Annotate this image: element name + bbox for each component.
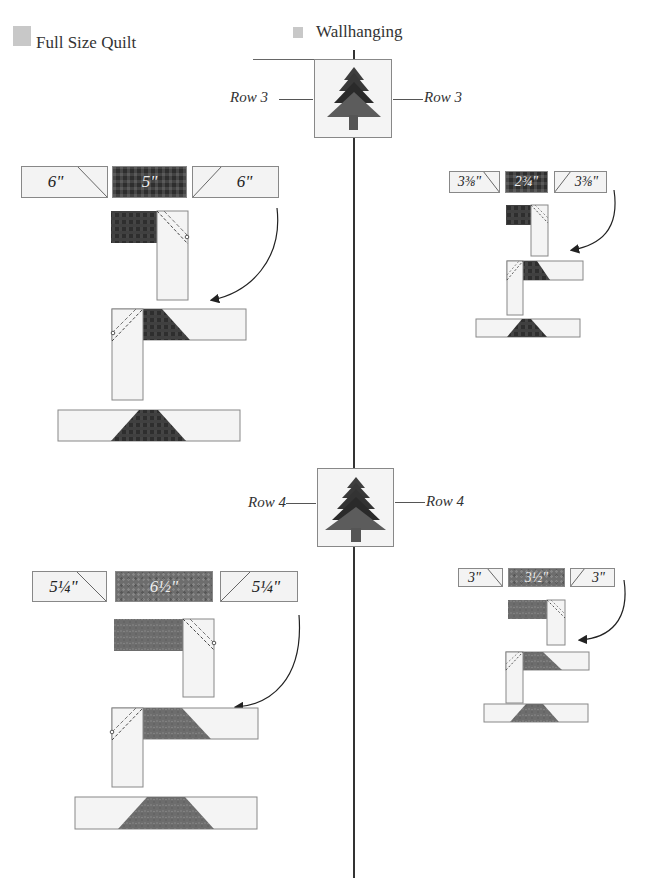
center-divider-line <box>353 50 355 878</box>
row4-wall-right-size: 3" <box>592 570 605 586</box>
row4-leader-left <box>286 503 316 504</box>
row4-full-middle-strip: 6½" <box>115 571 213 602</box>
row3-leader-left <box>279 99 313 100</box>
row3-full-left-size: 6" <box>48 172 64 192</box>
row3-full-middle-size: 5" <box>142 172 158 192</box>
wallhanging-swatch <box>293 27 303 38</box>
row4-wall-right-strip: 3" <box>570 568 615 587</box>
row3-full-middle-strip: 5" <box>112 166 187 198</box>
row3-wall-right-size: 3⅜" <box>575 174 598 190</box>
row4-wall-left-strip: 3" <box>458 568 503 587</box>
row3-label-right: Row 3 <box>424 89 462 106</box>
row3-tree-block <box>314 59 392 138</box>
wallhanging-legend-label: Wallhanging <box>316 22 402 42</box>
row4-wall-left-size: 3" <box>468 570 481 586</box>
full-size-swatch <box>13 26 31 46</box>
row3-wall-middle-strip: 2¾" <box>505 171 548 193</box>
row4-full-left-size: 5¼" <box>49 577 77 597</box>
tree-icon <box>318 469 395 548</box>
tree-icon <box>315 60 393 139</box>
row4-full-right-strip: 5¼" <box>220 571 298 602</box>
row4-wall-middle-strip: 3½" <box>508 568 565 587</box>
row3-wall-left-size: 3⅜" <box>458 174 481 190</box>
row4-wall-middle-size: 3½" <box>525 570 548 586</box>
row4-label-right: Row 4 <box>426 493 464 510</box>
full-size-legend-label: Full Size Quilt <box>36 33 136 53</box>
row3-label-left: Row 3 <box>230 89 268 106</box>
row3-full-right-strip: 6" <box>192 166 279 198</box>
row4-full-middle-size: 6½" <box>150 577 178 597</box>
row4-full-right-size: 5¼" <box>252 577 280 597</box>
row3-leader-right <box>393 99 423 100</box>
row3-wall-left-strip: 3⅜" <box>449 171 500 193</box>
row3-full-left-strip: 6" <box>21 166 108 198</box>
row3-wall-right-strip: 3⅜" <box>554 171 607 193</box>
row4-label-left: Row 4 <box>248 494 286 511</box>
spine-top-tick <box>253 59 315 60</box>
row3-full-right-size: 6" <box>237 172 253 192</box>
row4-full-left-strip: 5¼" <box>32 571 107 602</box>
row3-wall-middle-size: 2¾" <box>515 174 538 190</box>
row4-leader-right <box>395 502 425 503</box>
row4-tree-block <box>317 468 394 547</box>
